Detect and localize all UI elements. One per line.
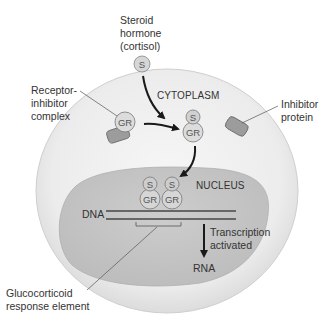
diagram-canvas: CYTOPLASM NUCLEUS Steroid hormone (corti… — [0, 0, 334, 327]
receptor-label-3: complex — [31, 110, 71, 122]
hormone-label-1: Steroid — [120, 14, 153, 26]
receptor-label-2: inhibitor — [31, 97, 68, 109]
receptor-label-1: Receptor- — [31, 84, 78, 96]
hormone-label-3: (cortisol) — [120, 40, 160, 52]
receptor-symbol: GR — [143, 194, 157, 205]
receptor-symbol: GR — [186, 127, 200, 138]
steroid-symbol: S — [169, 179, 175, 190]
transcription-label-2: activated — [210, 239, 252, 251]
receptor-symbol: GR — [165, 194, 179, 205]
steroid-molecule-free: S — [134, 56, 150, 72]
gre-label-2: response element — [6, 300, 90, 312]
transcription-label-1: Transcription — [210, 226, 270, 238]
steroid-symbol: S — [139, 59, 145, 70]
hormone-receptor-complex: S GR — [183, 110, 203, 142]
rna-label: RNA — [193, 262, 215, 274]
inhibitor-label-1: Inhibitor — [281, 98, 319, 110]
receptor-symbol: GR — [118, 117, 132, 128]
dna-label: DNA — [82, 208, 104, 220]
cytoplasm-label: CYTOPLASM — [157, 90, 219, 101]
steroid-symbol: S — [147, 179, 153, 190]
inhibitor-label-2: protein — [281, 111, 313, 123]
gre-label-1: Glucocorticoid — [6, 287, 73, 299]
nucleus-label: NUCLEUS — [196, 180, 245, 191]
hormone-label-2: hormone — [120, 27, 162, 39]
steroid-symbol: S — [190, 112, 196, 123]
